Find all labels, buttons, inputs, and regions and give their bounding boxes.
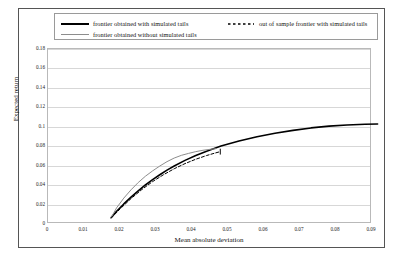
y-tick-label: 0.04: [36, 181, 45, 187]
series-line-2: [111, 152, 220, 218]
x-tick-label: 0.05: [222, 226, 231, 232]
y-tick-label: 0.08: [36, 142, 45, 148]
y-tick-label: 0.14: [36, 84, 45, 90]
y-tick-label: 0.1: [39, 123, 45, 129]
legend-swatch-solid-gray-icon: [61, 34, 89, 35]
chart-legend: frontier obtained with simulated tails f…: [54, 13, 378, 40]
x-tick-label: 0.01: [78, 226, 87, 232]
x-tick-label: 0.04: [186, 226, 195, 232]
x-tick-label: 0: [46, 226, 49, 232]
series-line-0: [111, 124, 377, 218]
legend-entry-without-simulated-tails: frontier obtained without simulated tail…: [61, 29, 197, 40]
x-tick-label: 0.06: [258, 226, 267, 232]
gridline: [48, 49, 370, 50]
x-axis-tick-labels: 00.010.020.030.040.050.060.070.080.09: [47, 226, 371, 236]
x-tick-label: 0.07: [294, 226, 303, 232]
x-tick-label: 0.08: [330, 226, 339, 232]
legend-swatch-solid-black-icon: [61, 23, 89, 25]
x-tick-label: 0.09: [366, 226, 375, 232]
y-tick-label: 0.12: [36, 103, 45, 109]
x-tick-label: 0.03: [150, 226, 159, 232]
gridline: [48, 88, 370, 89]
legend-label-2: out of sample frontier with simulated ta…: [259, 20, 367, 27]
legend-entry-with-simulated-tails: frontier obtained with simulated tails: [61, 18, 188, 29]
gridline: [48, 68, 370, 69]
series-line-1: [111, 149, 215, 218]
y-axis-title: Expected return: [12, 44, 20, 154]
y-tick-label: 0: [42, 220, 45, 226]
chart-figure: frontier obtained with simulated tails f…: [0, 0, 402, 269]
legend-label-1: frontier obtained without simulated tail…: [93, 31, 197, 38]
x-tick-label: 0.02: [114, 226, 123, 232]
plot-area: [47, 48, 371, 223]
y-tick-label: 0.06: [36, 162, 45, 168]
x-axis-title: Mean absolute deviation: [47, 236, 371, 244]
y-tick-label: 0.02: [36, 201, 45, 207]
legend-label-0: frontier obtained with simulated tails: [93, 20, 188, 27]
y-tick-label: 0.16: [36, 64, 45, 70]
legend-entry-out-of-sample: out of sample frontier with simulated ta…: [227, 18, 367, 29]
y-tick-label: 0.18: [36, 45, 45, 51]
